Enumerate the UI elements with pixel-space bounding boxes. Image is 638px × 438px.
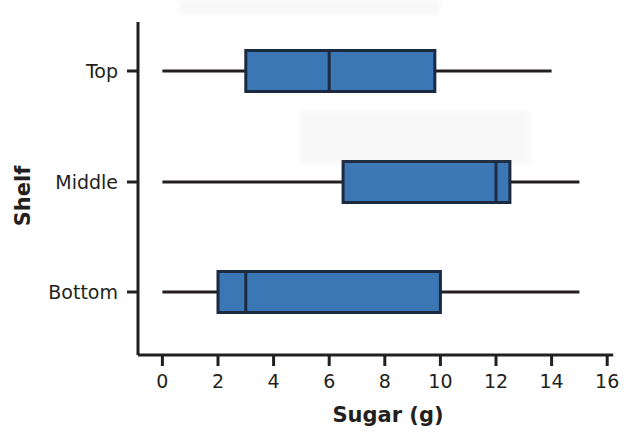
- x-tick-label: 0: [156, 370, 168, 392]
- box-iqr: [218, 272, 440, 313]
- x-tick-label: 8: [379, 370, 391, 392]
- category-label-top: Top: [85, 60, 118, 82]
- x-tick-label: 2: [212, 370, 224, 392]
- box-iqr: [246, 51, 435, 92]
- chart-canvas: 0246810121416TopMiddleBottom Sugar (g) S…: [0, 0, 638, 438]
- box-iqr: [343, 162, 510, 203]
- x-tick-label: 16: [595, 370, 619, 392]
- y-axis-title: Shelf: [11, 165, 35, 227]
- category-label-bottom: Bottom: [48, 281, 118, 303]
- x-tick-label: 4: [268, 370, 280, 392]
- x-tick-label: 10: [428, 370, 452, 392]
- x-axis-title: Sugar (g): [332, 403, 443, 427]
- x-tick-label: 6: [323, 370, 335, 392]
- category-label-middle: Middle: [55, 171, 118, 193]
- x-tick-label: 14: [540, 370, 564, 392]
- x-tick-label: 12: [484, 370, 508, 392]
- box-plot-chart: 0246810121416TopMiddleBottom Sugar (g) S…: [0, 0, 638, 438]
